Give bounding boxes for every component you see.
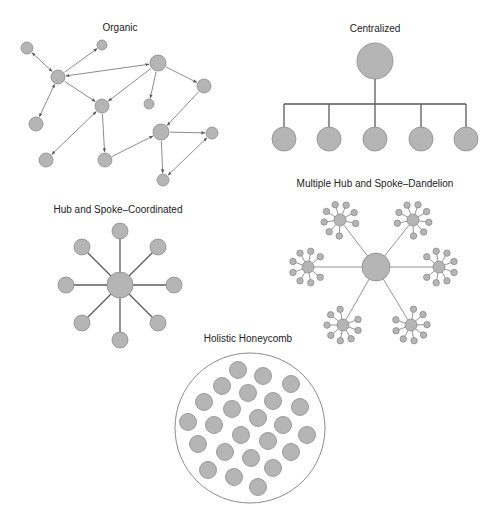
dandelion-sub-hub-node: [405, 319, 417, 331]
organic-node: [98, 153, 112, 167]
dandelion-satellite-node: [394, 220, 400, 226]
organic-edge: [65, 81, 96, 101]
dandelion-satellite-node: [326, 229, 332, 235]
dandelion-satellite-node: [290, 258, 296, 264]
dandelion-hub-node: [362, 253, 390, 281]
honeycomb-cell: [260, 433, 277, 450]
organic-diagram: Organic: [21, 22, 218, 186]
honeycomb-cell: [190, 436, 207, 453]
dandelion-satellite-node: [411, 338, 417, 344]
spoke-node: [150, 239, 166, 255]
organic-edge: [170, 132, 205, 133]
spoke-node: [112, 332, 128, 348]
honeycomb-cell: [283, 376, 300, 393]
dandelion-satellite-node: [393, 328, 399, 334]
honeycomb-cell: [283, 444, 300, 461]
dandelion-satellite-node: [393, 317, 399, 323]
centralized-root-node: [357, 43, 393, 79]
dandelion-satellite-node: [420, 311, 426, 317]
spoke-node: [74, 315, 90, 331]
organic-edge: [39, 84, 54, 117]
dandelion-sub-hub-node: [433, 261, 445, 273]
honeycomb-cell: [214, 378, 231, 395]
dandelion-satellite-node: [308, 248, 314, 254]
dandelion-satellite-node: [451, 258, 457, 264]
spoke-node: [166, 277, 182, 293]
dandelion-satellite-node: [433, 248, 439, 254]
spoke-node: [74, 239, 90, 255]
dandelion-satellite-node: [444, 250, 450, 256]
honeycomb-cell: [265, 460, 282, 477]
honeycomb-cell: [250, 479, 267, 496]
dandelion-title: Multiple Hub and Spoke–Dandelion: [297, 178, 454, 189]
dandelion-satellite-node: [410, 306, 416, 312]
organic-node: [29, 117, 43, 131]
hub-node: [107, 272, 133, 298]
dandelion-satellite-node: [337, 338, 343, 344]
dandelion-satellite-node: [324, 322, 330, 328]
organic-title: Organic: [102, 22, 137, 33]
dandelion-satellite-node: [321, 219, 327, 225]
honeycomb-cell: [196, 394, 213, 411]
honeycomb-cell: [226, 469, 243, 486]
organic-node: [95, 99, 109, 113]
dandelion-satellite-node: [400, 336, 406, 342]
dandelion-satellite-node: [328, 332, 334, 338]
dandelion-sub-hub-node: [302, 261, 314, 273]
organic-node: [144, 99, 154, 109]
centralized-child-node: [317, 127, 341, 151]
centralized-child-node: [272, 127, 296, 151]
organic-edge: [167, 92, 198, 126]
organic-edge: [108, 68, 151, 101]
dandelion-satellite-node: [297, 278, 303, 284]
centralized-title: Centralized: [350, 23, 401, 34]
honeycomb-cell: [275, 417, 292, 434]
honeycomb-cell: [292, 399, 309, 416]
organic-node: [97, 40, 107, 50]
dandelion-satellite-node: [410, 233, 416, 239]
hub-and-spoke-title: Hub and Spoke–Coordinated: [54, 204, 183, 215]
organic-node: [206, 127, 218, 139]
dandelion-satellite-node: [351, 209, 357, 215]
dandelion-satellite-node: [308, 280, 314, 286]
centralized-child-node: [454, 127, 478, 151]
centralized-child-node: [363, 127, 387, 151]
dandelion-satellite-node: [420, 332, 426, 338]
dandelion-satellite-node: [336, 233, 342, 239]
honeycomb-cell: [224, 401, 241, 418]
organic-node: [197, 79, 211, 93]
dandelion-sub-hub-node: [407, 214, 419, 226]
honeycomb-cell: [180, 414, 197, 431]
dandelion-satellite-node: [317, 254, 323, 260]
network-topology-diagrams: Organic Centralized Hub and Spoke–Coordi…: [0, 0, 492, 517]
organic-node: [150, 55, 166, 71]
organic-node: [39, 153, 53, 167]
dandelion-satellite-node: [355, 316, 361, 322]
dandelion-satellite-node: [396, 209, 402, 215]
spoke-node: [58, 277, 74, 293]
dandelion-diagram: Multiple Hub and Spoke–Dandelion: [290, 178, 457, 344]
organic-node: [157, 174, 169, 186]
organic-edges: [32, 49, 207, 176]
honeycomb-cell: [250, 410, 267, 427]
dandelion-satellite-node: [332, 202, 338, 208]
centralized-diagram: Centralized: [272, 23, 478, 151]
organic-node: [51, 70, 65, 84]
organic-node: [153, 124, 169, 140]
dandelion-satellite-node: [423, 208, 429, 214]
organic-edge: [52, 112, 96, 155]
organic-edge: [150, 72, 156, 98]
dandelion-sub-hub-node: [334, 214, 346, 226]
organic-edge: [32, 53, 52, 72]
honeycomb-cell: [233, 427, 250, 444]
honeycomb-cell: [243, 450, 260, 467]
hub-and-spoke-diagram: Hub and Spoke–Coordinated: [54, 204, 183, 348]
honeycomb-cells: [175, 353, 325, 503]
dandelion-satellite-node: [426, 219, 432, 225]
honeycomb-cell: [299, 427, 316, 444]
organic-edge: [66, 64, 149, 76]
organic-node: [21, 42, 33, 54]
dandelion-satellite-node: [415, 202, 421, 208]
dandelion-satellite-node: [404, 202, 410, 208]
honeycomb-title: Holistic Honeycomb: [204, 333, 293, 344]
